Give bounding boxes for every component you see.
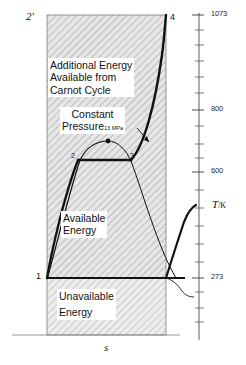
state-point-label-1: 1: [36, 271, 41, 282]
critical-point-marker: [106, 139, 111, 144]
state-point-label-3: 3: [130, 152, 134, 160]
y-tick-label-273: 273: [211, 273, 223, 282]
unavailable-energy-line-2: Energy: [59, 306, 114, 318]
additional-energy-line-2: Available from: [50, 71, 132, 83]
constant-pressure-value: 13 MPa: [104, 125, 123, 131]
constant-pressure-line-1: Constant: [62, 108, 123, 120]
x-axis-title: s: [104, 341, 108, 354]
available-energy-callout: Available Energy: [61, 211, 107, 238]
y-tick-label-600: 600: [211, 167, 223, 176]
state-point-label-4: 4: [170, 12, 175, 23]
available-plus-additional-region: [47, 15, 166, 278]
y-axis-title-unit: /K: [218, 201, 226, 210]
unavailable-energy-callout: Unavailable Energy: [57, 289, 116, 320]
additional-energy-line-3: Carnot Cycle: [50, 84, 132, 96]
state-point-label-2: 2: [71, 152, 75, 160]
y-axis-major-ticks: [192, 15, 204, 278]
additional-energy-callout: Additional Energy Available from Carnot …: [48, 58, 134, 97]
right-side-temperature-curve: [166, 205, 196, 278]
ts-diagram-canvas: [0, 0, 246, 365]
constant-pressure-callout: Constant Pressure13 MPa: [60, 107, 125, 134]
ts-diagram-figure: 2′ 4 1 2 3 Additional Energy Available f…: [0, 0, 246, 365]
state-point-label-2-prime: 2′: [26, 10, 34, 23]
y-tick-label-800: 800: [211, 105, 223, 114]
available-energy-line-2: Energy: [63, 224, 105, 236]
unavailable-energy-line-1: Unavailable: [59, 290, 114, 302]
y-tick-label-1073: 1073: [211, 10, 227, 19]
constant-pressure-line-2: Pressure: [62, 120, 104, 132]
state-point-2-marker: [78, 159, 81, 162]
additional-energy-line-1: Additional Energy: [50, 59, 132, 71]
condenser-tail-curve: [166, 278, 194, 297]
available-energy-line-1: Available: [63, 212, 105, 224]
y-axis-title: T/K: [212, 198, 226, 211]
